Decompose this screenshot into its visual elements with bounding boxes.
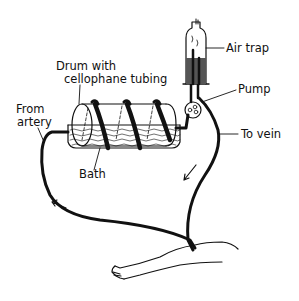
flow-arrow-vein bbox=[184, 165, 196, 180]
to-vein-label: To vein bbox=[241, 128, 281, 141]
dialysis-diagram: Air trap Drum with cellophane tubing Pum… bbox=[0, 0, 299, 301]
bath-label: Bath bbox=[79, 168, 106, 181]
air-trap-label: Air trap bbox=[226, 42, 269, 55]
from-artery-label-line2: artery bbox=[17, 116, 52, 129]
pump bbox=[185, 102, 201, 118]
vein-tube bbox=[188, 98, 219, 250]
drum-outlet-tube bbox=[176, 115, 188, 128]
air-trap bbox=[183, 19, 209, 84]
pump-label: Pump bbox=[238, 83, 271, 96]
arm bbox=[112, 242, 238, 279]
artery-tube bbox=[42, 132, 195, 248]
drum-label-line2: cellophane tubing bbox=[64, 73, 167, 86]
